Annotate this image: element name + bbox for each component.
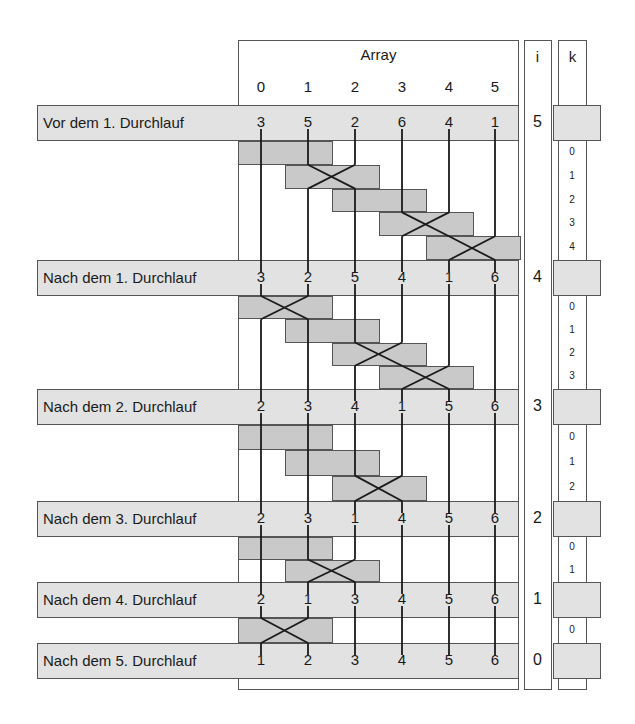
array-value: 1 [343,500,367,536]
array-value: 4 [390,500,414,536]
array-value: 6 [483,500,507,536]
array-value: 5 [437,581,461,617]
array-value: 5 [296,104,320,140]
array-value: 2 [296,259,320,295]
array-value: 1 [437,259,461,295]
array-value: 6 [483,581,507,617]
array-value: 1 [249,642,273,678]
array-value: 3 [249,259,273,295]
array-value: 4 [343,388,367,424]
array-value: 5 [437,642,461,678]
array-value: 5 [437,388,461,424]
array-value: 1 [296,581,320,617]
array-value: 2 [296,642,320,678]
array-value: 4 [437,104,461,140]
array-value: 6 [483,259,507,295]
array-value: 2 [343,104,367,140]
array-value: 4 [390,581,414,617]
array-value: 3 [296,500,320,536]
array-value: 1 [390,388,414,424]
array-value: 1 [483,104,507,140]
array-value: 2 [249,581,273,617]
array-value: 2 [249,500,273,536]
array-value: 3 [343,581,367,617]
array-value: 3 [296,388,320,424]
array-value: 3 [249,104,273,140]
array-value: 3 [343,642,367,678]
array-value: 4 [390,259,414,295]
array-value: 5 [343,259,367,295]
array-value: 5 [437,500,461,536]
array-value: 4 [390,642,414,678]
array-value: 6 [483,642,507,678]
array-value: 6 [390,104,414,140]
array-value: 6 [483,388,507,424]
array-value: 2 [249,388,273,424]
